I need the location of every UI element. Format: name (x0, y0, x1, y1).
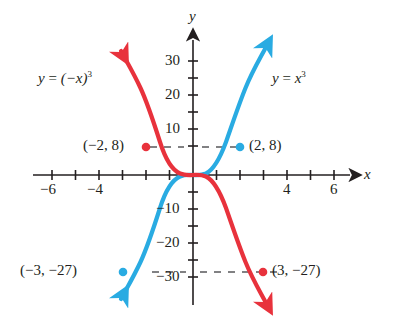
equation-red-exponent: 3 (87, 69, 92, 79)
point-label-2-8: (2, 8) (249, 138, 282, 153)
y-tick-label-neg30: −30 (156, 269, 179, 284)
equation-blue-lhs: y (272, 70, 279, 86)
y-tick-label-neg20: −20 (156, 235, 179, 250)
graph-figure: y x −6 −4 4 6 30 20 10 −10 −20 −30 y = (… (0, 0, 396, 317)
y-tick-label-20: 20 (165, 87, 180, 102)
x-axis-name: x (364, 167, 371, 182)
point-marker-neg3-neg27 (119, 268, 128, 277)
equation-red-lhs: y (38, 70, 45, 86)
point-marker-2-8 (236, 143, 245, 152)
x-tick-label-4: 4 (283, 182, 291, 197)
equation-red-eq: = (45, 70, 61, 86)
point-label-neg3-neg27: (−3, −27) (20, 263, 77, 278)
x-tick-label-6: 6 (330, 182, 338, 197)
y-axis (188, 40, 198, 305)
point-marker-neg2-8 (142, 143, 151, 152)
y-axis-name: y (189, 9, 196, 24)
equation-label-red: y = (−x)3 (38, 70, 92, 86)
point-label-neg2-8: (−2, 8) (83, 138, 124, 153)
equation-label-blue: y = x3 (272, 70, 306, 86)
point-label-3-neg27: (3, −27) (272, 263, 320, 278)
y-tick-label-10: 10 (165, 121, 180, 136)
equation-blue-exponent: 3 (301, 69, 306, 79)
x-tick-label-neg6: −6 (40, 182, 56, 197)
point-marker-3-neg27 (259, 268, 268, 277)
y-tick-label-neg10: −10 (156, 201, 179, 216)
equation-red-base: (−x) (61, 70, 88, 86)
x-tick-label-neg4: −4 (87, 182, 103, 197)
y-tick-label-30: 30 (165, 53, 180, 68)
equation-blue-eq: = (279, 70, 295, 86)
